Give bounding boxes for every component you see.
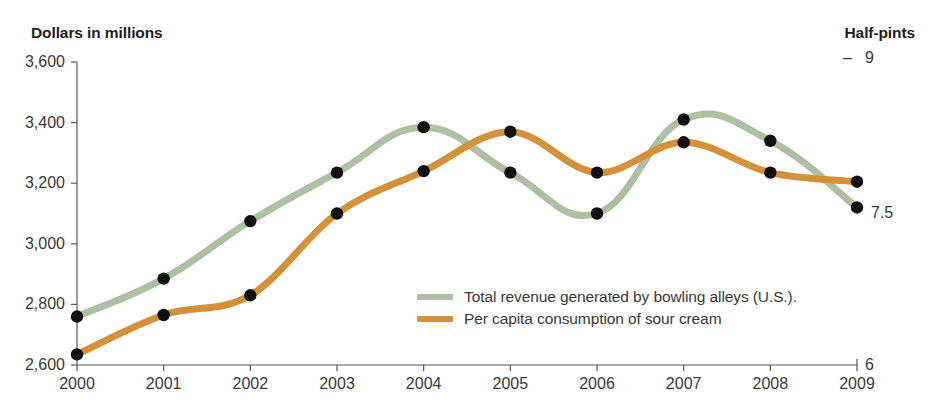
x-tick-label: 2006 (579, 375, 615, 393)
legend-swatch-sourcream (417, 316, 453, 322)
right-tick-label: 6 (865, 356, 874, 374)
left-tick-label: 2,600 (0, 356, 65, 374)
data-point-marker (764, 135, 776, 147)
right-tick-dash: – (843, 49, 852, 67)
data-point-marker (71, 310, 83, 322)
left-tick-label: 3,200 (0, 174, 65, 192)
data-point-marker (504, 166, 516, 178)
right-tick-label: 9 (865, 49, 874, 67)
left-tick-label: 3,600 (0, 53, 65, 71)
left-tick-label: 3,400 (0, 114, 65, 132)
data-point-marker (331, 207, 343, 219)
data-point-marker (244, 215, 256, 227)
left-tick-label: 3,000 (0, 235, 65, 253)
chart-figure: Dollars in millions Half-pints 3,6003,40… (0, 0, 929, 410)
legend-label-bowling: Total revenue generated by bowling alley… (464, 288, 797, 306)
x-tick-label: 2005 (493, 375, 529, 393)
x-tick-label: 2007 (666, 375, 702, 393)
data-point-marker (157, 309, 169, 321)
legend-item-bowling: Total revenue generated by bowling alley… (417, 286, 797, 308)
x-tick-label: 2000 (59, 375, 95, 393)
left-tick-label: 2,800 (0, 295, 65, 313)
data-point-marker (417, 121, 429, 133)
data-point-marker (244, 289, 256, 301)
right-tick-label: 7.5 (871, 204, 893, 222)
data-point-marker (677, 136, 689, 148)
data-point-marker (71, 348, 83, 360)
x-tick-label: 2003 (319, 375, 355, 393)
x-tick-label: 2004 (406, 375, 442, 393)
data-point-marker (331, 166, 343, 178)
legend-item-sourcream: Per capita consumption of sour cream (417, 308, 797, 330)
chart-legend: Total revenue generated by bowling alley… (417, 286, 797, 330)
left-axis-title: Dollars in millions (31, 24, 163, 42)
data-point-marker (591, 207, 603, 219)
data-point-marker (504, 125, 516, 137)
data-point-marker (157, 272, 169, 284)
x-tick-label: 2001 (146, 375, 182, 393)
data-point-marker (764, 166, 776, 178)
data-point-marker (417, 165, 429, 177)
x-tick-label: 2002 (233, 375, 269, 393)
x-tick-label: 2008 (753, 375, 789, 393)
x-tick-label: 2009 (839, 375, 875, 393)
data-point-marker (591, 166, 603, 178)
legend-label-sourcream: Per capita consumption of sour cream (464, 310, 721, 328)
data-point-marker (851, 201, 863, 213)
legend-swatch-bowling (417, 294, 453, 300)
right-axis-title: Half-pints (845, 24, 915, 42)
data-point-marker (851, 175, 863, 187)
data-point-marker (677, 113, 689, 125)
